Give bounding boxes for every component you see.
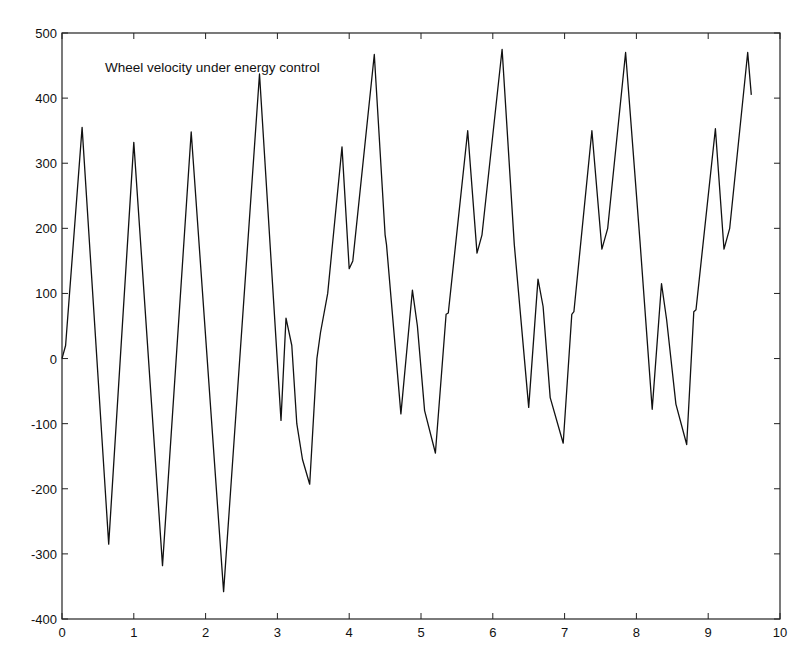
y-tick-label: 0	[50, 352, 57, 367]
x-tick-label: 10	[773, 625, 787, 640]
x-tick-label: 6	[489, 625, 496, 640]
x-tick-label: 9	[705, 625, 712, 640]
x-tick-label: 4	[346, 625, 353, 640]
chart-annotation: Wheel velocity under energy control	[105, 60, 320, 75]
x-tick-label: 1	[130, 625, 137, 640]
y-tick-label: 400	[35, 91, 57, 106]
axes-box	[62, 33, 780, 619]
y-tick-label: -100	[31, 417, 57, 432]
x-tick-label: 8	[633, 625, 640, 640]
line-chart: 012345678910 -400-300-200-10001002003004…	[0, 0, 801, 664]
x-tick-label: 7	[561, 625, 568, 640]
y-tick-label: 100	[35, 286, 57, 301]
x-tick-label: 3	[274, 625, 281, 640]
y-tick-label: -400	[31, 612, 57, 627]
x-tick-label: 5	[417, 625, 424, 640]
y-tick-label: 300	[35, 156, 57, 171]
y-tick-label: -300	[31, 547, 57, 562]
y-tick-label: 200	[35, 221, 57, 236]
y-tick-label: -200	[31, 482, 57, 497]
y-tick-label: 500	[35, 26, 57, 41]
plot-area: 012345678910 -400-300-200-10001002003004…	[31, 26, 787, 640]
x-tick-label: 2	[202, 625, 209, 640]
x-tick-label: 0	[58, 625, 65, 640]
